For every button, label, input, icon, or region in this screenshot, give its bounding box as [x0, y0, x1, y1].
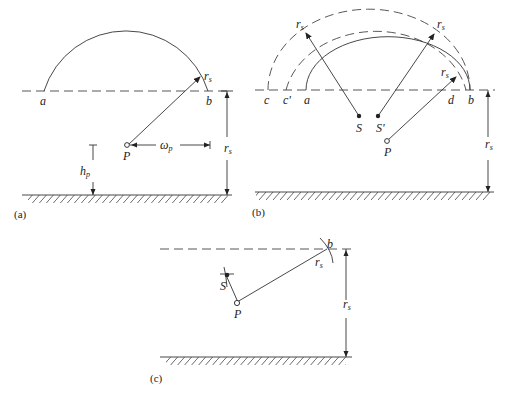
- svg-text:S': S': [376, 121, 385, 135]
- svg-text:ωp: ωp: [160, 138, 172, 153]
- svg-text:P: P: [233, 307, 242, 321]
- point-s-prime: [376, 114, 380, 118]
- svg-text:S: S: [356, 121, 362, 135]
- point-s: [357, 114, 361, 118]
- svg-text:c: c: [264, 93, 270, 107]
- panel-b: c c' a d b S S' P rs rs rs rs (b): [252, 9, 495, 219]
- svg-text:rs: rs: [441, 65, 449, 80]
- caption-c: (c): [150, 372, 163, 385]
- rs-line-s: [306, 33, 359, 116]
- label-a: a: [40, 94, 46, 108]
- svg-text:rs: rs: [343, 297, 351, 312]
- arc-c-prime: [286, 31, 466, 90]
- caption-a: (a): [14, 208, 27, 221]
- label-p: P: [122, 149, 131, 163]
- svg-text:rs: rs: [485, 137, 493, 152]
- svg-text:a: a: [304, 93, 310, 107]
- ground-hatch: [256, 192, 490, 200]
- label-b: b: [206, 94, 212, 108]
- svg-text:rs: rs: [204, 69, 212, 84]
- point-p: [125, 143, 130, 148]
- ground-hatch: [28, 195, 228, 203]
- arc-a-b: [306, 37, 470, 90]
- svg-text:rs: rs: [296, 17, 304, 32]
- svg-text:hp: hp: [80, 164, 90, 179]
- svg-text:b: b: [327, 237, 333, 251]
- ground-hatch: [166, 357, 346, 365]
- caption-b: (b): [252, 206, 265, 219]
- panel-a: a b P rs rs ωp hp (a): [14, 31, 233, 221]
- svg-text:rs: rs: [224, 141, 232, 156]
- svg-text:S: S: [220, 279, 226, 293]
- point-p: [234, 300, 239, 305]
- arc: [44, 31, 208, 91]
- svg-text:rs: rs: [315, 255, 323, 270]
- point-p: [385, 139, 390, 144]
- svg-text:c': c': [283, 93, 291, 107]
- svg-text:b: b: [468, 93, 474, 107]
- rs-line-s-prime: [378, 34, 434, 116]
- rs-radius-line: [128, 77, 200, 145]
- svg-text:rs: rs: [437, 17, 445, 32]
- point-s: [225, 273, 230, 278]
- diagram-canvas: a b P rs rs ωp hp (a) c c' a d b S S' P …: [0, 0, 510, 396]
- svg-text:d: d: [448, 93, 455, 107]
- rs-line: [237, 249, 327, 302]
- panel-c: b S P rs rs (c): [150, 237, 355, 385]
- svg-text:P: P: [383, 145, 392, 159]
